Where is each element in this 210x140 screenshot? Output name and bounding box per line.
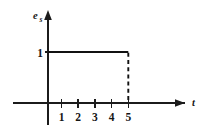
x-axis-arrow-icon xyxy=(175,99,185,107)
figure-container: 1 2 3 4 5 1 e s t xyxy=(0,0,210,140)
pulse-waveform-chart: 1 2 3 4 5 1 e s t xyxy=(0,0,210,140)
y-tick-label-1: 1 xyxy=(37,47,43,59)
y-axis-arrow-icon xyxy=(44,10,52,20)
y-axis-label: e xyxy=(33,10,38,21)
x-tick-label-4: 4 xyxy=(109,111,115,123)
x-axis-label: t xyxy=(192,97,196,108)
x-tick-label-1: 1 xyxy=(59,111,65,123)
y-axis-label-subscript: s xyxy=(39,15,43,24)
x-tick-label-2: 2 xyxy=(75,111,81,123)
x-tick-label-5: 5 xyxy=(125,111,131,123)
x-tick-label-3: 3 xyxy=(92,111,98,123)
